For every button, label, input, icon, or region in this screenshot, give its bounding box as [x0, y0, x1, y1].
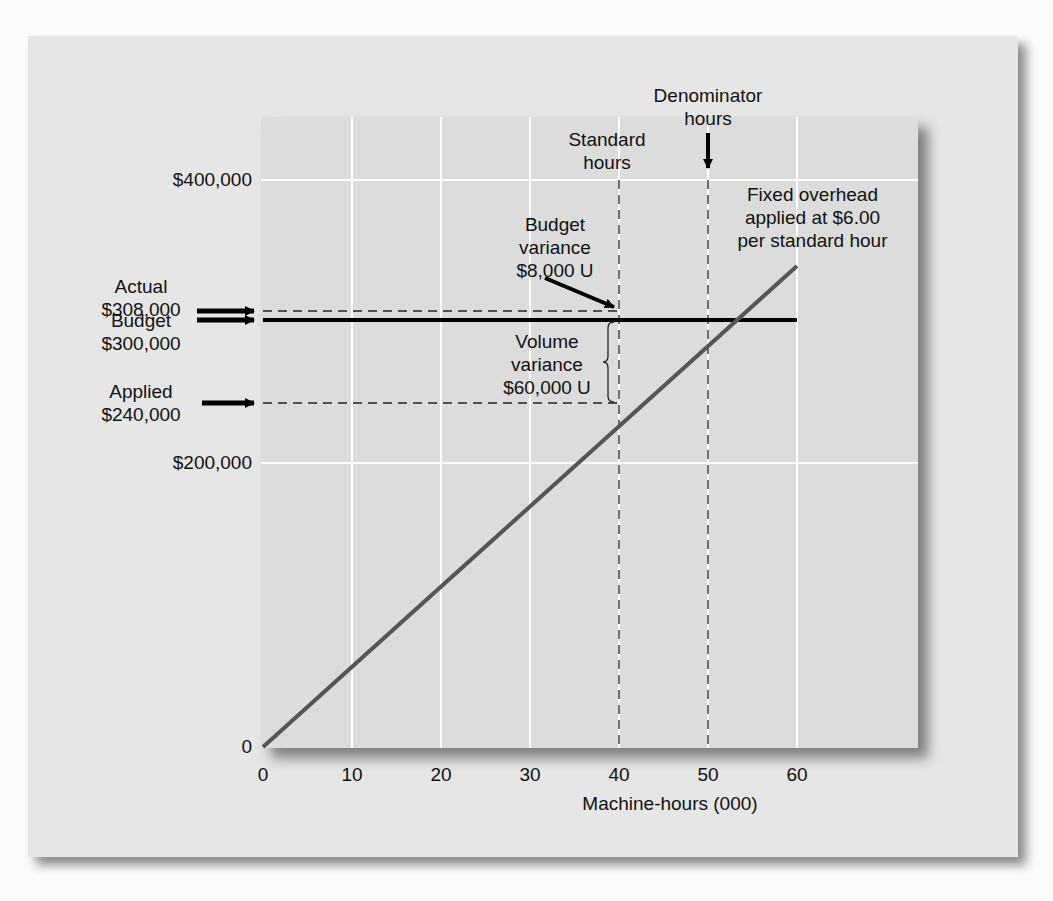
- applied-label: Applied $240,000: [86, 380, 196, 426]
- label-line: $300,000: [86, 332, 196, 355]
- label-line: hours: [638, 107, 778, 130]
- label-line: Actual: [86, 275, 196, 298]
- label-line: Budget: [500, 213, 610, 236]
- label-line: Volume: [487, 330, 607, 353]
- denominator-hours-label: Denominator hours: [638, 84, 778, 130]
- label-line: applied at $6.00: [710, 206, 915, 229]
- x-tick-60: 60: [777, 764, 817, 786]
- y-tick-200000: $200,000: [92, 452, 252, 474]
- x-tick-50: 50: [688, 764, 728, 786]
- x-tick-10: 10: [332, 764, 372, 786]
- budget-variance-arrow: [545, 278, 614, 307]
- x-axis-label: Machine-hours (000): [540, 792, 800, 815]
- standard-hours-label: Standard hours: [552, 128, 662, 174]
- budget-variance-label: Budget variance $8,000 U: [500, 213, 610, 282]
- label-line: per standard hour: [710, 229, 915, 252]
- label-line: variance: [487, 353, 607, 376]
- label-line: $8,000 U: [500, 259, 610, 282]
- x-tick-30: 30: [510, 764, 550, 786]
- budget-label: Budget $300,000: [86, 309, 196, 355]
- x-tick-40: 40: [599, 764, 639, 786]
- y-tick-400000: $400,000: [92, 169, 252, 191]
- x-tick-20: 20: [421, 764, 461, 786]
- x-tick-0: 0: [243, 764, 283, 786]
- fixed-overhead-label: Fixed overhead applied at $6.00 per stan…: [710, 183, 915, 252]
- label-line: variance: [500, 236, 610, 259]
- label-line: Fixed overhead: [710, 183, 915, 206]
- label-line: Applied: [86, 380, 196, 403]
- label-line: Budget: [86, 309, 196, 332]
- volume-variance-label: Volume variance $60,000 U: [487, 330, 607, 399]
- y-tick-0: 0: [92, 736, 252, 758]
- label-line: $60,000 U: [487, 376, 607, 399]
- label-line: Denominator: [638, 84, 778, 107]
- label-line: $240,000: [86, 403, 196, 426]
- label-line: hours: [552, 151, 662, 174]
- label-line: Standard: [552, 128, 662, 151]
